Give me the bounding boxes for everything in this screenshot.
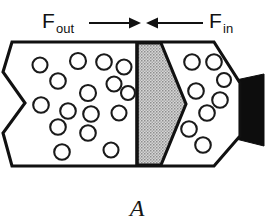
arrow-out bbox=[89, 18, 141, 29]
particle bbox=[50, 119, 66, 135]
particle bbox=[83, 106, 99, 122]
particle bbox=[54, 144, 70, 160]
force-label-in: F in bbox=[209, 9, 233, 36]
force-out-symbol: F bbox=[42, 9, 55, 32]
particle bbox=[107, 77, 122, 92]
particle bbox=[104, 143, 119, 158]
particle bbox=[112, 106, 127, 121]
particle bbox=[80, 85, 96, 101]
arrow-in-head bbox=[146, 18, 158, 29]
particle bbox=[50, 73, 66, 89]
particle bbox=[33, 97, 49, 113]
particle bbox=[96, 54, 112, 70]
particle bbox=[184, 54, 200, 70]
force-in-subscript: in bbox=[223, 21, 233, 36]
particle bbox=[60, 103, 76, 119]
particle bbox=[70, 53, 86, 69]
particle bbox=[121, 86, 135, 100]
particle bbox=[217, 73, 231, 87]
force-label-out: F out bbox=[42, 9, 74, 36]
particle bbox=[33, 58, 48, 73]
diagram-canvas: F out F in bbox=[0, 0, 273, 222]
particle bbox=[117, 60, 132, 75]
particle bbox=[181, 121, 197, 137]
particle bbox=[199, 105, 215, 121]
particle bbox=[188, 83, 204, 99]
force-in-symbol: F bbox=[209, 9, 222, 32]
particle bbox=[212, 92, 228, 108]
particle bbox=[80, 125, 96, 141]
force-out-subscript: out bbox=[56, 21, 74, 36]
pressure-vessel-diagram: F out F in bbox=[0, 0, 273, 222]
figure-caption: A bbox=[128, 195, 145, 221]
particle bbox=[206, 54, 222, 70]
particle bbox=[195, 137, 211, 153]
arrow-in bbox=[146, 18, 203, 29]
arrow-out-head bbox=[129, 18, 141, 29]
